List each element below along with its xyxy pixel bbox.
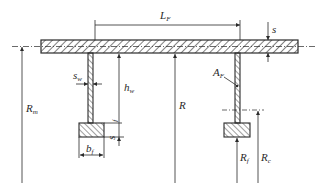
right-stiffener-web [235,53,240,123]
label-s-w: sw [73,70,82,83]
leader-A-F-dot [236,85,239,88]
dimension-s-f [104,123,124,146]
right-stiffener [224,53,250,137]
label-R: R [179,100,186,111]
label-L-F: LF [160,10,170,23]
label-s-f: sf [106,120,119,126]
left-stiffener [79,53,104,137]
label-h-w: hw [124,82,134,95]
dimension-L-F [95,20,240,40]
label-R-f: Rf [240,152,249,165]
label-A-F: AF [213,67,224,80]
label-R-m: Rm [26,103,38,116]
left-stiffener-web [88,53,93,123]
dimension-h-w [104,54,122,123]
left-stiffener-flange [79,123,104,137]
label-R-c: Rc [261,152,271,165]
label-s: s [272,24,276,35]
right-stiffener-flange [224,123,250,137]
label-b-f: bf [86,143,93,156]
leader-A-F [224,77,236,85]
